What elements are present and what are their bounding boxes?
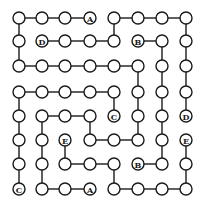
node-circle: [132, 60, 144, 72]
node-circle: [156, 86, 168, 98]
node-circle: [132, 183, 144, 195]
empty-node[interactable]: [108, 12, 120, 24]
node-circle: [132, 110, 144, 122]
empty-node[interactable]: [13, 134, 25, 146]
empty-node[interactable]: [108, 60, 120, 72]
empty-node[interactable]: [59, 12, 71, 24]
node-circle: [108, 158, 120, 170]
empty-node[interactable]: [132, 134, 144, 146]
node-letter: B: [135, 160, 142, 170]
empty-node[interactable]: [156, 86, 168, 98]
node-circle: [36, 158, 48, 170]
letter-node-c[interactable]: C: [13, 183, 25, 195]
letter-node-b[interactable]: B: [132, 158, 144, 170]
node-circle: [36, 134, 48, 146]
empty-node[interactable]: [59, 158, 71, 170]
empty-node[interactable]: [59, 60, 71, 72]
letter-node-a[interactable]: A: [84, 12, 96, 24]
empty-node[interactable]: [36, 183, 48, 195]
node-circle: [108, 60, 120, 72]
node-circle: [156, 12, 168, 24]
empty-node[interactable]: [156, 12, 168, 24]
empty-node[interactable]: [36, 158, 48, 170]
empty-node[interactable]: [180, 86, 192, 98]
empty-node[interactable]: [84, 134, 96, 146]
letter-node-c[interactable]: C: [108, 110, 120, 122]
empty-node[interactable]: [84, 60, 96, 72]
node-circle: [132, 12, 144, 24]
empty-node[interactable]: [180, 60, 192, 72]
empty-node[interactable]: [108, 86, 120, 98]
empty-node[interactable]: [132, 110, 144, 122]
empty-node[interactable]: [13, 110, 25, 122]
node-circle: [13, 12, 25, 24]
empty-node[interactable]: [13, 158, 25, 170]
empty-node[interactable]: [108, 35, 120, 47]
empty-node[interactable]: [180, 35, 192, 47]
node-circle: [180, 158, 192, 170]
empty-node[interactable]: [132, 12, 144, 24]
empty-node[interactable]: [156, 158, 168, 170]
empty-node[interactable]: [84, 86, 96, 98]
node-circle: [59, 158, 71, 170]
empty-node[interactable]: [180, 183, 192, 195]
empty-node[interactable]: [13, 35, 25, 47]
empty-node[interactable]: [156, 110, 168, 122]
empty-node[interactable]: [108, 158, 120, 170]
letter-node-d[interactable]: D: [36, 35, 48, 47]
empty-node[interactable]: [36, 134, 48, 146]
empty-node[interactable]: [84, 110, 96, 122]
empty-node[interactable]: [36, 60, 48, 72]
empty-node[interactable]: [156, 60, 168, 72]
empty-node[interactable]: [156, 134, 168, 146]
node-circle: [13, 158, 25, 170]
letter-node-a[interactable]: A: [84, 183, 96, 195]
empty-node[interactable]: [13, 86, 25, 98]
node-letter: A: [86, 14, 94, 24]
empty-node[interactable]: [108, 183, 120, 195]
empty-node[interactable]: [36, 86, 48, 98]
empty-node[interactable]: [59, 86, 71, 98]
empty-node[interactable]: [59, 183, 71, 195]
letter-node-d[interactable]: D: [180, 110, 192, 122]
empty-node[interactable]: [132, 60, 144, 72]
empty-node[interactable]: [59, 110, 71, 122]
node-letter: D: [183, 112, 190, 122]
node-letter: C: [16, 185, 22, 195]
empty-node[interactable]: [156, 183, 168, 195]
node-circle: [180, 60, 192, 72]
maze-puzzle-board: ADBCDEEBCA: [0, 0, 204, 206]
node-circle: [36, 110, 48, 122]
node-circle: [156, 183, 168, 195]
empty-node[interactable]: [36, 12, 48, 24]
empty-node[interactable]: [13, 60, 25, 72]
node-circle: [59, 60, 71, 72]
empty-node[interactable]: [180, 12, 192, 24]
letter-node-e[interactable]: E: [59, 134, 71, 146]
node-circle: [84, 60, 96, 72]
empty-node[interactable]: [180, 158, 192, 170]
node-circle: [84, 35, 96, 47]
node-circle: [13, 35, 25, 47]
letter-node-b[interactable]: B: [132, 35, 144, 47]
node-circle: [36, 12, 48, 24]
empty-node[interactable]: [132, 183, 144, 195]
node-circle: [36, 183, 48, 195]
empty-node[interactable]: [132, 86, 144, 98]
node-circle: [180, 183, 192, 195]
letter-node-e[interactable]: E: [180, 134, 192, 146]
circle-nodes: ADBCDEEBCA: [13, 12, 192, 195]
empty-node[interactable]: [36, 110, 48, 122]
empty-node[interactable]: [59, 35, 71, 47]
empty-node[interactable]: [13, 12, 25, 24]
node-circle: [13, 134, 25, 146]
node-circle: [84, 110, 96, 122]
empty-node[interactable]: [156, 35, 168, 47]
node-circle: [59, 110, 71, 122]
empty-node[interactable]: [84, 158, 96, 170]
node-circle: [132, 134, 144, 146]
node-circle: [59, 86, 71, 98]
node-circle: [13, 110, 25, 122]
empty-node[interactable]: [108, 134, 120, 146]
empty-node[interactable]: [84, 35, 96, 47]
